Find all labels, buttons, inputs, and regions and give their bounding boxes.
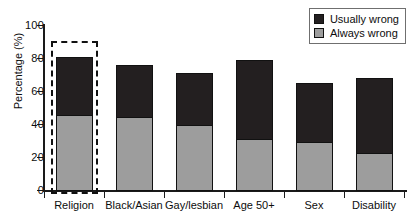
x-category-label-sex: Sex xyxy=(284,199,344,211)
segment-always-wrong-gay-lesbian xyxy=(177,125,212,190)
legend-swatch-always-wrong xyxy=(314,28,324,38)
legend-label-always-wrong: Always wrong xyxy=(330,27,398,39)
y-tick-label-0: 0 xyxy=(10,185,44,196)
segment-always-wrong-religion xyxy=(57,115,92,191)
legend: Usually wrong Always wrong xyxy=(309,8,406,44)
x-tick-4 xyxy=(284,192,285,198)
y-tick-label-20: 20 xyxy=(10,152,44,163)
stacked-bar-chart: 100 80 60 40 20 0 Percentage (%) Religio… xyxy=(0,0,411,220)
segment-usually-wrong-black-asian xyxy=(117,66,152,119)
bar-group-sex[interactable] xyxy=(296,25,333,191)
x-axis-line xyxy=(43,190,407,192)
bar-group-age-50-plus[interactable] xyxy=(236,25,273,191)
bar-religion[interactable] xyxy=(56,57,93,191)
bar-group-religion[interactable] xyxy=(56,25,93,191)
y-axis-title: Percentage (%) xyxy=(12,1,24,141)
y-axis-line xyxy=(43,24,45,192)
bar-disability[interactable] xyxy=(356,78,393,191)
segment-always-wrong-age-50-plus xyxy=(237,139,272,191)
segment-usually-wrong-religion xyxy=(57,58,92,116)
x-tick-2 xyxy=(164,192,165,198)
bar-age-50-plus[interactable] xyxy=(236,60,273,191)
bar-sex[interactable] xyxy=(296,83,333,191)
segment-usually-wrong-gay-lesbian xyxy=(177,74,212,127)
x-category-label-disability: Disability xyxy=(344,199,404,211)
segment-always-wrong-sex xyxy=(297,142,332,190)
legend-swatch-usually-wrong xyxy=(314,14,324,24)
segment-always-wrong-disability xyxy=(357,153,392,190)
x-category-label-black-asian: Black/Asian xyxy=(104,199,164,211)
legend-item-always-wrong[interactable]: Always wrong xyxy=(314,26,399,40)
x-tick-6 xyxy=(404,192,405,198)
bar-group-gay-lesbian[interactable] xyxy=(176,25,213,191)
x-tick-3 xyxy=(224,192,225,198)
x-tick-1 xyxy=(104,192,105,198)
segment-always-wrong-black-asian xyxy=(117,117,152,190)
segment-usually-wrong-disability xyxy=(357,79,392,155)
bar-group-black-asian[interactable] xyxy=(116,25,153,191)
bar-gay-lesbian[interactable] xyxy=(176,73,213,191)
segment-usually-wrong-age-50-plus xyxy=(237,61,272,141)
legend-item-usually-wrong[interactable]: Usually wrong xyxy=(314,12,399,26)
x-tick-0 xyxy=(44,192,45,198)
bar-black-asian[interactable] xyxy=(116,65,153,191)
bar-group-disability[interactable] xyxy=(356,25,393,191)
x-category-label-religion: Religion xyxy=(44,199,104,211)
x-category-label-age-50-plus: Age 50+ xyxy=(224,199,284,211)
legend-label-usually-wrong: Usually wrong xyxy=(330,13,399,25)
segment-usually-wrong-sex xyxy=(297,84,332,144)
x-category-label-gay-lesbian: Gay/lesbian xyxy=(164,199,224,211)
x-tick-5 xyxy=(344,192,345,198)
